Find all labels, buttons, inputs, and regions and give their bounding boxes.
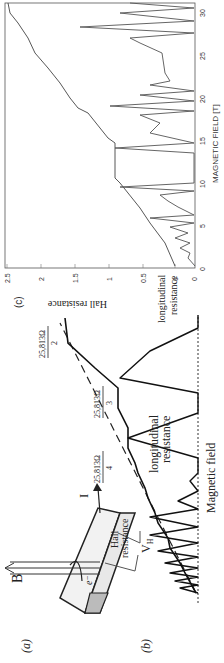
svg-text:5: 5 [199,224,206,228]
c-plot-frame [5,3,195,268]
panel-b: (b) Hall resistance longitudinal resista… [38,315,218,653]
svg-text:2: 2 [50,341,59,345]
electron-label: e⁻ [83,575,94,585]
b-xlabel: Magnetic field [204,443,218,513]
svg-text:25,813Ω: 25,813Ω [38,330,47,358]
c-ylabel-long-1: longitudinal [156,274,167,323]
svg-text:2: 2 [38,277,45,281]
I-label: I [76,494,91,498]
c-ylabel-hall: Hall resistance [47,299,107,310]
svg-text:0.5: 0.5 [140,273,147,283]
panel-c: (c) 2.5 2 1.5 1 0.5 0 0 Hall resistance … [4,3,220,323]
svg-text:25,813Ω: 25,813Ω [93,455,102,483]
svg-text:30: 30 [199,9,206,17]
svg-text:25: 25 [199,52,206,60]
svg-text:0: 0 [191,277,198,281]
svg-text:1: 1 [106,277,113,281]
panel-b-label: (b) [139,639,153,653]
svg-text:20: 20 [199,95,206,103]
svg-text:4: 4 [105,466,114,470]
svg-text:3: 3 [105,401,114,405]
c-xlabel: MAGNETIC FIELD [T] [211,104,220,183]
B-label: B [10,574,25,583]
c-hall-trace [8,3,175,266]
long-label-2: resistance [159,416,173,463]
svg-text:25,813Ω: 25,813Ω [93,390,102,418]
panel-a-label: (a) [19,639,33,653]
panel-c-label: (c) [13,296,24,308]
VH-label: VH [139,538,155,553]
svg-text:15: 15 [199,137,206,145]
hall-label-2: resistance [119,518,130,558]
c-ylabel-long-2: resistance [168,275,179,315]
figure-canvas: (a) B e⁻ I VH (b) Hall r [0,0,224,663]
c-longitudinal-trace [80,3,195,266]
c-x-ticks: 0 5 10 15 20 25 30 [199,9,206,271]
svg-text:10: 10 [199,180,206,188]
svg-text:2.5: 2.5 [4,273,11,283]
current-arrowhead-icon [93,483,102,491]
panel-a: (a) B e⁻ I VH [5,483,155,653]
svg-text:0: 0 [199,267,206,271]
svg-text:1.5: 1.5 [72,273,79,283]
